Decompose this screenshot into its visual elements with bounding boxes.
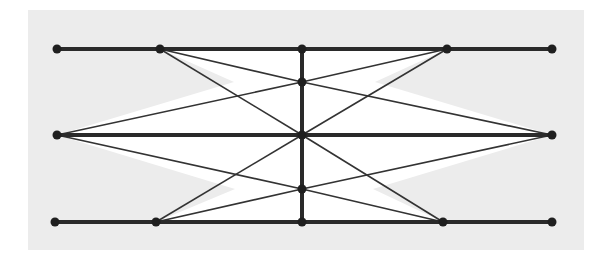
node-bot-center [298,218,307,227]
node-top-center [298,45,307,54]
node-top-inner-left [156,45,165,54]
node-mid-right [548,131,557,140]
node-top-inner-right [443,45,452,54]
node-mid-center [298,131,307,140]
node-top-right-end [548,45,557,54]
node-bot-inner-left [152,218,161,227]
node-bot-right-end [548,218,557,227]
node-upper-center [298,78,307,87]
line-diagram [0,0,610,270]
node-lower-center [298,185,307,194]
node-top-left-end [53,45,62,54]
node-bot-left-end [51,218,60,227]
node-bot-inner-right [439,218,448,227]
node-mid-left [53,131,62,140]
